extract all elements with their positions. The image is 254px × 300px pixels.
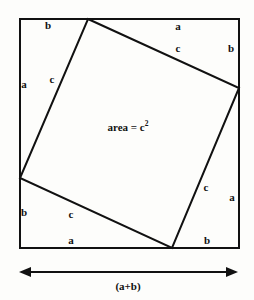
segment-label-upper-right-c: c xyxy=(176,43,181,54)
segment-label-bottom-left-a: a xyxy=(68,235,74,246)
area-label: area = c2 xyxy=(108,122,149,133)
segment-label-top-right-a: a xyxy=(175,21,181,32)
segment-label-right-bottom-a: a xyxy=(229,192,235,203)
segment-label-left-top-a: a xyxy=(21,79,27,90)
diagram-canvas xyxy=(0,0,254,300)
segment-label-upper-left-c: c xyxy=(50,74,55,85)
area-label-text: area = c xyxy=(108,121,145,133)
dimension-label: (a+b) xyxy=(115,281,140,292)
outer-square xyxy=(20,19,239,248)
dimension-arrow xyxy=(19,267,238,277)
segment-label-right-lower-c: c xyxy=(204,182,209,193)
pythagorean-diagram: area = c2 b a c b a c c a b c a b (a+b) xyxy=(0,0,254,300)
segment-label-top-left-b: b xyxy=(45,20,51,31)
segment-label-lower-left-c: c xyxy=(69,209,74,220)
segment-label-bottom-right-b: b xyxy=(204,235,210,246)
segment-label-right-top-b: b xyxy=(228,43,234,54)
inner-tilted-square xyxy=(20,19,239,248)
area-label-exponent: 2 xyxy=(145,119,149,128)
segment-label-left-bottom-b: b xyxy=(21,207,27,218)
